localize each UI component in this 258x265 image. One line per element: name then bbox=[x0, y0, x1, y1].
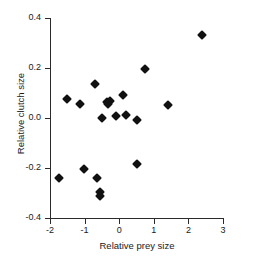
x-tick-label: -2 bbox=[40, 226, 60, 235]
y-tick-label: 0.4 bbox=[15, 13, 41, 22]
x-tick bbox=[50, 219, 51, 224]
x-axis-line bbox=[50, 218, 224, 219]
x-tick bbox=[85, 219, 86, 224]
x-axis-title: Relative prey size bbox=[50, 240, 224, 251]
x-tick bbox=[188, 219, 189, 224]
x-tick-label: 0 bbox=[109, 226, 129, 235]
x-tick-label: 3 bbox=[213, 226, 233, 235]
x-tick-label: -1 bbox=[75, 226, 95, 235]
y-tick-label: -0.4 bbox=[15, 213, 41, 222]
x-tick bbox=[154, 219, 155, 224]
x-tick bbox=[119, 219, 120, 224]
x-tick-label: 2 bbox=[178, 226, 198, 235]
y-axis-title: Relative clutch size bbox=[15, 44, 26, 184]
scatter-plot-figure: -0.4-0.20.00.20.4 -2-10123 Relative prey… bbox=[0, 0, 258, 265]
x-tick-label: 1 bbox=[144, 226, 164, 235]
x-tick bbox=[223, 219, 224, 224]
